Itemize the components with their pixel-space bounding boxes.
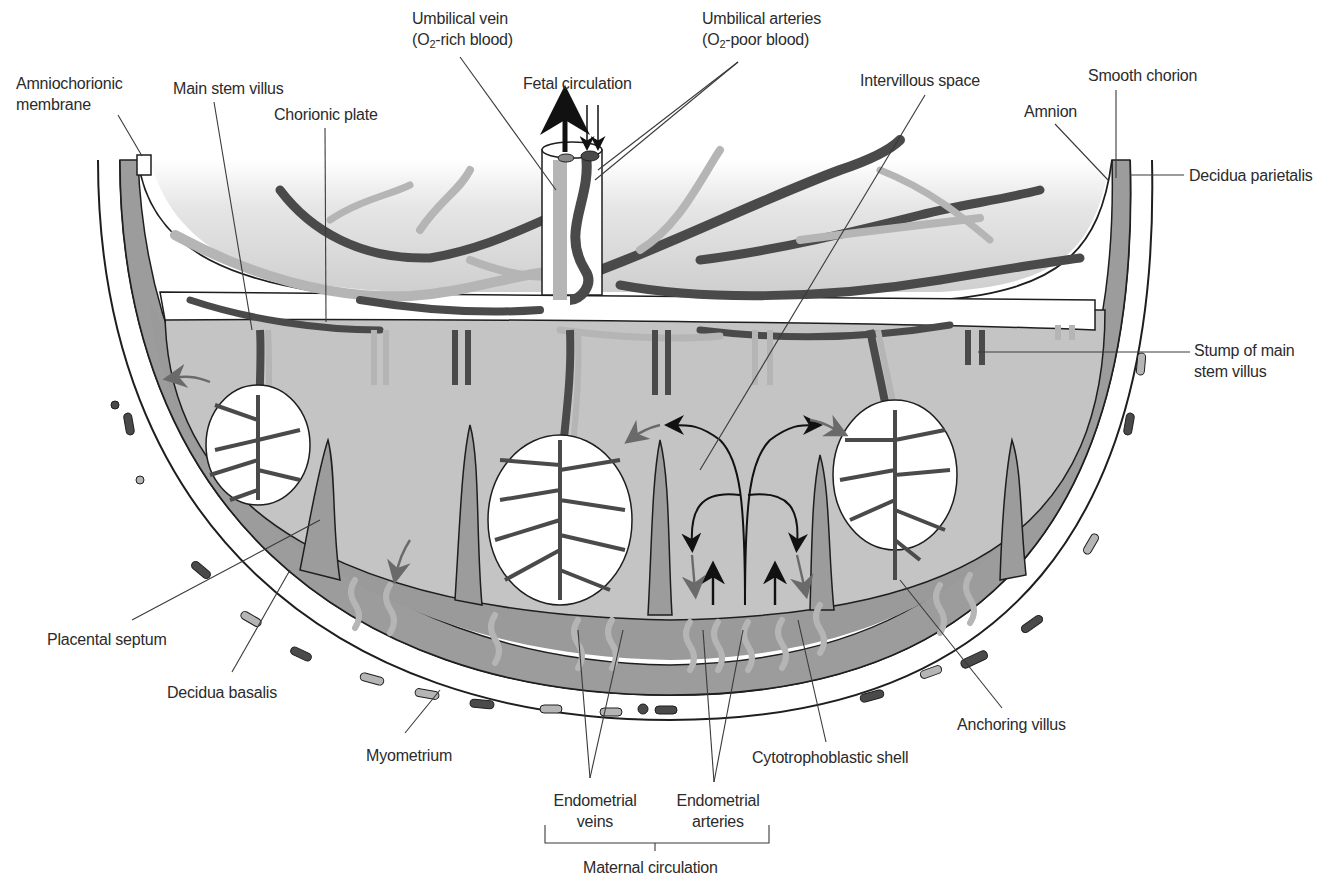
- label-main-stem-villus: Main stem villus: [173, 78, 284, 99]
- label-maternal-circulation: Maternal circulation: [583, 857, 718, 878]
- villous-tree-left: [206, 385, 310, 505]
- label-intervillous-space: Intervillous space: [860, 70, 980, 91]
- label-decidua-parietalis: Decidua parietalis: [1189, 165, 1313, 186]
- label-amnion: Amnion: [1024, 101, 1077, 122]
- label-decidua-basalis: Decidua basalis: [167, 682, 277, 703]
- label-stump-of-main-stem-villus: Stump of main stem villus: [1194, 340, 1295, 382]
- label-umbilical-arteries: Umbilical arteries (O2-poor blood): [702, 8, 821, 50]
- placenta-diagram: [0, 0, 1341, 894]
- label-smooth-chorion: Smooth chorion: [1088, 65, 1197, 86]
- label-endometrial-arteries: Endometrial arteries: [676, 790, 759, 832]
- villous-tree-center: [488, 435, 632, 605]
- label-placental-septum: Placental septum: [47, 629, 167, 650]
- label-fetal-circulation: Fetal circulation: [523, 73, 632, 94]
- umbilical-cord: [542, 105, 602, 300]
- amniochorionic-membrane: [137, 155, 151, 175]
- label-myometrium: Myometrium: [366, 745, 452, 766]
- label-endometrial-veins: Endometrial veins: [553, 790, 636, 832]
- label-amniochorionic-membrane: Amniochorionic membrane: [16, 73, 123, 115]
- label-anchoring-villus: Anchoring villus: [957, 714, 1066, 735]
- label-cytotrophoblastic-shell: Cytotrophoblastic shell: [752, 747, 908, 768]
- label-chorionic-plate: Chorionic plate: [274, 104, 378, 125]
- label-umbilical-vein: Umbilical vein (O2-rich blood): [412, 8, 513, 50]
